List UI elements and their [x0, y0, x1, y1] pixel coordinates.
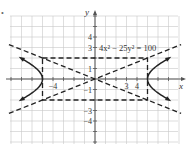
y-tick-label: 4 — [88, 33, 92, 42]
y-tick-label: 3 — [88, 44, 92, 53]
x-tick-label: 4 — [135, 82, 139, 91]
y-axis-label: y — [84, 7, 89, 17]
equation-label: 4x² − 25y² = 100 — [99, 43, 156, 53]
y-tick-label: −1 — [83, 86, 92, 95]
x-axis-label: x — [178, 81, 183, 91]
y-tick-label: 1 — [88, 65, 92, 74]
y-tick-label: −3 — [83, 107, 92, 116]
x-tick-label: 3 — [125, 82, 129, 91]
hyperbola-graph: −434431−1−3−4 x y 4x² − 25y² = 100 — [0, 0, 188, 149]
axes — [6, 10, 186, 144]
y-tick-label: −4 — [83, 117, 92, 126]
x-tick-label: −4 — [49, 82, 58, 91]
